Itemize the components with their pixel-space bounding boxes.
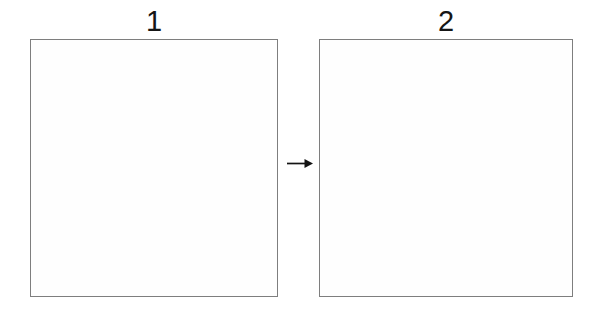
right-arrow-icon bbox=[287, 158, 313, 169]
panel-2-label: 2 bbox=[319, 4, 573, 38]
panel-1-label: 1 bbox=[30, 4, 278, 38]
panel-1-box bbox=[30, 39, 278, 297]
panel-2-box bbox=[319, 39, 573, 297]
figure-canvas: 1 2 bbox=[0, 0, 610, 314]
